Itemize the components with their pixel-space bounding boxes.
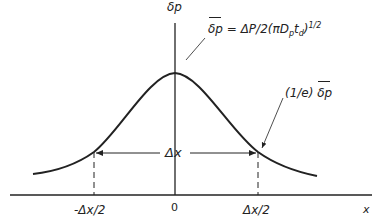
x-axis-label: x [363, 203, 370, 216]
diagram-graphics [0, 0, 380, 220]
hat-delta-p: δp [208, 22, 223, 36]
e-point-leader [262, 98, 283, 148]
tick-left: -Δx/2 [74, 203, 105, 217]
tick-center: 0 [171, 201, 178, 214]
peak-label: δp = ΔP/2(πDptd)1/2 [208, 21, 321, 38]
tick-right: Δx/2 [243, 203, 270, 217]
width-label: Δx [165, 145, 182, 160]
e-point-label: (1/e) δp [285, 86, 332, 100]
peak-leader [186, 38, 205, 60]
y-axis-label: δp [167, 0, 182, 14]
